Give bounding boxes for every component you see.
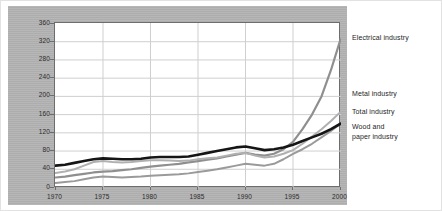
x-axis-tick-mark <box>102 187 103 190</box>
y-axis-tick-label: 40 <box>26 164 50 171</box>
x-axis-tick-mark <box>55 187 56 190</box>
y-axis-tick-label: 200 <box>26 91 50 98</box>
legend-item-label: Total industry <box>352 107 395 117</box>
y-axis-tick-label: 240 <box>26 73 50 80</box>
chart-screenshot: 04080120160200240280320360 1970197519801… <box>0 0 442 211</box>
y-axis-tick-label: 120 <box>26 128 50 135</box>
y-axis-tick-mark <box>50 187 54 188</box>
y-axis-tick-mark <box>50 168 54 169</box>
legend-item-label: Wood and paper industry <box>352 122 398 141</box>
y-axis-tick-mark <box>50 95 54 96</box>
vertical-gridlines <box>103 23 293 188</box>
x-axis-tick-mark <box>150 187 151 190</box>
x-axis-tick-label: 2000 <box>332 193 347 201</box>
y-axis-tick-label: 320 <box>26 37 50 44</box>
y-axis-tick-label: 80 <box>26 146 50 153</box>
y-axis-tick-mark <box>50 132 54 133</box>
y-axis-tick-mark <box>50 77 54 78</box>
y-axis: 04080120160200240280320360 <box>22 6 50 205</box>
x-axis-tick-label: 1990 <box>237 193 252 201</box>
legend-item-label: Electrical industry <box>352 33 409 43</box>
x-axis-tick-mark <box>245 187 246 190</box>
x-axis-tick-label: 1985 <box>190 193 205 201</box>
y-axis-tick-mark <box>50 41 54 42</box>
x-axis-tick-label: 1995 <box>285 193 300 201</box>
plot-svg <box>55 23 341 188</box>
y-axis-tick-mark <box>50 150 54 151</box>
x-axis-tick-label: 1980 <box>142 193 157 201</box>
chart-panel: 04080120160200240280320360 1970197519801… <box>8 6 347 205</box>
x-axis-tick-mark <box>292 187 293 190</box>
x-axis-tick-mark <box>340 187 341 190</box>
y-axis-tick-mark <box>50 23 54 24</box>
y-axis-tick-label: 0 <box>26 183 50 190</box>
y-axis-tick-label: 160 <box>26 110 50 117</box>
chart-legend: Electrical industryMetal industryTotal i… <box>352 0 442 211</box>
x-axis-tick-mark <box>197 187 198 190</box>
x-axis-tick-label: 1970 <box>47 193 62 201</box>
y-axis-tick-mark <box>50 59 54 60</box>
y-axis-tick-mark <box>50 114 54 115</box>
x-axis-tick-label: 1975 <box>95 193 110 201</box>
x-axis: 1970197519801985199019952000 <box>54 190 340 204</box>
y-axis-tick-label: 280 <box>26 55 50 62</box>
legend-item-label: Metal industry <box>352 89 397 99</box>
y-axis-tick-label: 360 <box>26 19 50 26</box>
plot-area <box>54 22 340 187</box>
